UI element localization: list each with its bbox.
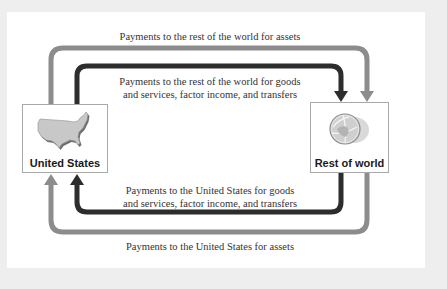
label-row-to-us-assets: Payments to the United States for assets (100, 240, 320, 253)
label-line-2: and services, factor income, and transfe… (100, 88, 320, 101)
label-row-to-us-goods: Payments to the United States for goods … (100, 184, 320, 210)
arrowhead-up-icon (70, 174, 84, 185)
arrowhead-down-icon (360, 91, 374, 102)
label-line-2: and services, factor income, and transfe… (100, 197, 320, 210)
node-united-states: United States (22, 104, 108, 173)
node-title: United States (23, 157, 107, 169)
label-us-to-row-goods: Payments to the rest of the world for go… (100, 75, 320, 101)
arrowhead-down-icon (334, 91, 348, 102)
node-rest-of-world: Rest of world (310, 102, 389, 173)
globe-icon (323, 109, 379, 149)
label-us-to-row-assets: Payments to the rest of the world for as… (100, 30, 320, 43)
label-line-1: Payments to the United States for goods (100, 184, 320, 197)
us-map-icon (34, 109, 94, 151)
arrowhead-up-icon (44, 174, 58, 185)
node-title: Rest of world (311, 157, 388, 169)
label-line-1: Payments to the rest of the world for go… (100, 75, 320, 88)
